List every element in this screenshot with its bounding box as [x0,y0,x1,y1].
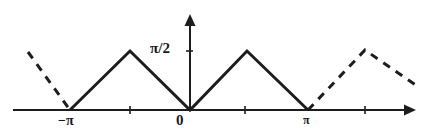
x-axis-label-origin: 0 [176,113,184,128]
waveform-dashed-left [28,52,70,110]
y-axis-label-halfpi: π/2 [150,41,170,56]
figure-root: π/2 −π 0 π [0,0,427,139]
x-axis-label-negative-pi: −π [58,114,74,128]
x-axis-label-pi: π [303,114,310,126]
y-axis-arrow-icon [185,14,196,26]
waveform-dashed-right [308,50,420,110]
x-axis-arrow-icon [404,105,416,116]
